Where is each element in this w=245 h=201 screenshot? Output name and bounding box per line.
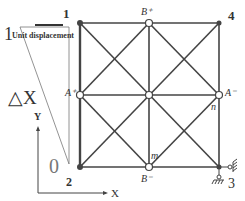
truss-diagram: 1 4 2 3 B⁺ B⁻ A⁺ A⁻ m n 1 Unit displacem…	[0, 0, 245, 201]
node-4-label: 4	[228, 8, 235, 24]
zero-label: 0	[49, 155, 59, 178]
node-m-label: m	[151, 150, 158, 161]
delta-x-label: △X	[8, 86, 37, 109]
roller-support-vertical	[212, 167, 224, 184]
roller-support-horizontal	[219, 159, 237, 172]
node-3-label: 3	[228, 176, 235, 192]
node-4	[217, 21, 222, 26]
y-axis-label: Y	[34, 111, 41, 122]
node-n-label: n	[211, 101, 216, 112]
node-a-minus-label: A⁻	[225, 87, 236, 98]
node-a-minus	[216, 92, 223, 99]
node-center	[146, 92, 153, 99]
node-b-plus-label: B⁺	[141, 6, 152, 17]
node-b-plus	[146, 20, 153, 27]
node-1-label: 1	[63, 6, 70, 22]
x-axis-label: X	[111, 187, 119, 199]
node-2-label: 2	[66, 175, 72, 190]
node-1	[77, 20, 83, 26]
node-a-plus-label: A⁺	[65, 87, 76, 98]
node-2	[77, 164, 83, 170]
x-axis-arrowhead	[103, 191, 108, 195]
node-a-plus	[77, 92, 84, 99]
node-b-minus-label: B⁻	[141, 173, 152, 184]
node-b-minus	[146, 164, 153, 171]
unit-displacement-label: Unit displacement	[12, 31, 74, 40]
y-axis-arrowhead	[36, 126, 40, 131]
